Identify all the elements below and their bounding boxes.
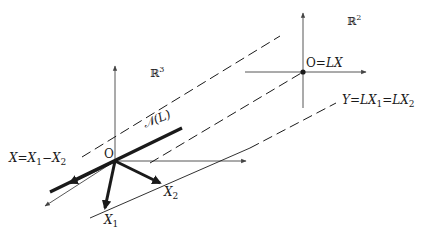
fibre-line-upper bbox=[82, 36, 280, 157]
x-difference-vector bbox=[70, 161, 115, 183]
fibre-line-lower-dashed bbox=[250, 103, 336, 148]
codomain-origin-label: O=LX bbox=[306, 57, 342, 69]
r3-space-label: ℝ3 bbox=[150, 66, 164, 79]
fibre-line-lower-solid bbox=[90, 148, 250, 218]
r2-origin-point bbox=[300, 69, 305, 74]
image-equation-label: Y=LX1=LX2 bbox=[342, 94, 415, 109]
domain-origin-label: O bbox=[104, 148, 114, 160]
x2-vector bbox=[115, 161, 160, 183]
x2-label: X2 bbox=[164, 186, 178, 201]
fibre-line-middle bbox=[150, 72, 303, 163]
x-difference-label: X=X1−X2 bbox=[9, 152, 66, 167]
diagram-lines bbox=[0, 0, 431, 235]
x1-label: X1 bbox=[104, 214, 118, 229]
linear-map-diagram: ℝ3 ℝ2 O O=LX 𝒩(L) X=X1−X2 X1 X2 Y=LX1=LX… bbox=[0, 0, 431, 235]
x1-vector bbox=[105, 161, 115, 208]
r2-space-label: ℝ2 bbox=[347, 14, 361, 27]
